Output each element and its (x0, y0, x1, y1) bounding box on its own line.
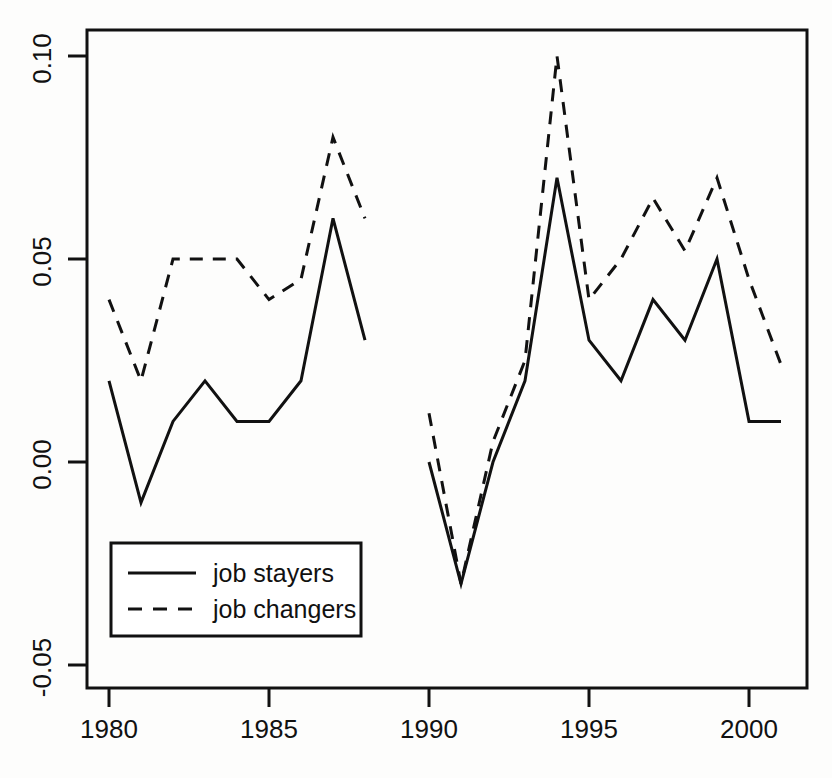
legend-label-job-changers: job changers (212, 595, 356, 623)
chart-figure: job stayers job changers -0.05 0.00 0.05… (0, 0, 832, 778)
series-line-job-changers-segment-1 (109, 137, 365, 381)
x-tick-label-1985: 1985 (219, 714, 319, 745)
series-line-job-stayers-segment-2 (429, 178, 781, 584)
x-tick-label-1990: 1990 (379, 714, 479, 745)
legend-label-job-stayers: job stayers (212, 559, 334, 587)
x-tick-label-1995: 1995 (539, 714, 639, 745)
x-tick-label-2000: 2000 (699, 714, 799, 745)
y-tick-label-010: 0.10 (27, 17, 58, 101)
chart-legend: job stayers job changers (111, 543, 361, 636)
y-tick-label-005: 0.05 (27, 220, 58, 304)
line-chart-canvas: job stayers job changers (0, 0, 832, 778)
y-tick-label-000: 0.00 (27, 423, 58, 507)
y-tick-label-neg005: -0.05 (27, 618, 58, 718)
x-tick-label-1980: 1980 (59, 714, 159, 745)
series-layer (109, 56, 781, 584)
x-axis-ticks (109, 688, 749, 707)
y-axis-ticks (68, 56, 87, 665)
